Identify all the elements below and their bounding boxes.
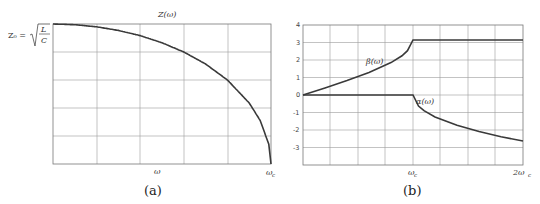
- panel-a-frame: [53, 24, 271, 164]
- z0-text: Z₀ =: [8, 31, 26, 40]
- svg-text:-3: -3: [293, 144, 299, 152]
- panel-a-title: Z(ω): [157, 10, 176, 19]
- svg-text:-2: -2: [293, 126, 299, 134]
- svg-text:-1: -1: [293, 109, 299, 117]
- panel-a-grid: [53, 24, 271, 164]
- svg-text:c: c: [272, 172, 275, 178]
- panel-b-x-omegac: ω c: [408, 168, 417, 178]
- svg-text:1: 1: [296, 74, 300, 82]
- panel-b-x-2omegac: 2ω c: [512, 168, 531, 178]
- svg-text:2: 2: [296, 56, 300, 64]
- caption-b: (b): [403, 183, 421, 198]
- panel-a-x-omega: ω: [154, 167, 161, 176]
- panel-a-x-omegac: ω c: [266, 168, 275, 178]
- alpha-label: α(ω): [416, 97, 434, 106]
- caption-a: (a): [144, 183, 162, 198]
- svg-text:3: 3: [296, 39, 300, 47]
- panel-b-y-ticks: 4 3 2 1 0 -1 -2 -3: [293, 21, 300, 152]
- sqrt-denominator: C: [41, 36, 47, 45]
- svg-text:c: c: [528, 172, 531, 178]
- panel-b: 4 3 2 1 0 -1 -2 -3 β(ω) α(ω) ω c 2ω c (b…: [293, 21, 531, 198]
- svg-text:2ω: 2ω: [512, 168, 525, 177]
- panel-a: Z(ω) Z₀ = L C ω ω c (a): [8, 10, 275, 198]
- svg-text:4: 4: [296, 21, 300, 29]
- svg-text:0: 0: [296, 91, 300, 99]
- figure: Z(ω) Z₀ = L C ω ω c (a): [0, 0, 540, 204]
- z-omega-curve: [53, 24, 271, 164]
- beta-label: β(ω): [365, 57, 383, 66]
- z0-label: Z₀ = L C: [8, 24, 50, 46]
- svg-text:c: c: [414, 172, 417, 178]
- sqrt-numerator: L: [40, 25, 46, 34]
